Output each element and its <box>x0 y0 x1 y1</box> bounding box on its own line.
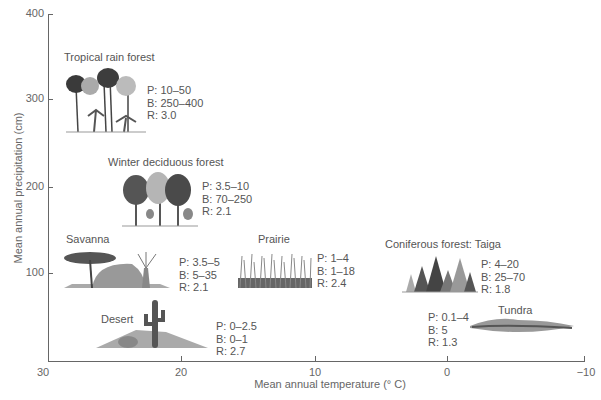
tropical-forest-illustration <box>66 66 146 134</box>
biome-stats-prairie: P: 1–4 B: 1–18 R: 2.4 <box>317 252 355 290</box>
y-axis <box>48 14 49 362</box>
y-tick-400 <box>48 14 53 15</box>
biomass-value: B: 5 <box>428 324 469 337</box>
biome-stats-tropical-rain-forest: P: 10–50 B: 250–400 R: 3.0 <box>147 84 203 122</box>
desert-cactus-illustration <box>96 300 210 350</box>
productivity-value: P: 3.5–5 <box>179 256 220 269</box>
biomass-value: B: 250–400 <box>147 97 203 110</box>
productivity-value: P: 0.1–4 <box>428 311 469 324</box>
taiga-forest-illustration <box>402 252 478 294</box>
ratio-value: R: 2.1 <box>202 205 252 218</box>
ratio-value: R: 1.3 <box>428 336 469 349</box>
biome-stats-tundra: P: 0.1–4 B: 5 R: 1.3 <box>428 311 469 349</box>
ratio-value: R: 2.7 <box>216 345 257 358</box>
ratio-value: R: 2.1 <box>179 281 220 294</box>
ratio-value: R: 2.4 <box>317 277 355 290</box>
ratio-value: R: 1.8 <box>481 283 525 296</box>
ratio-value: R: 3.0 <box>147 109 203 122</box>
x-tick-label-minus10: −10 <box>571 366 601 378</box>
x-tick-label-0: 0 <box>432 366 462 378</box>
biomass-value: B: 70–250 <box>202 193 252 206</box>
productivity-value: P: 0–2.5 <box>216 320 257 333</box>
savanna-illustration <box>62 248 172 290</box>
biome-stats-savanna: P: 3.5–5 B: 5–35 R: 2.1 <box>179 256 220 294</box>
productivity-value: P: 3.5–10 <box>202 180 252 193</box>
x-tick-0 <box>447 356 448 361</box>
biome-label-tropical-rain-forest: Tropical rain forest <box>64 51 155 63</box>
y-axis-title: Mean annual precipitation (cm) <box>12 98 24 278</box>
productivity-value: P: 4–20 <box>481 258 525 271</box>
x-tick-minus10 <box>584 356 585 361</box>
x-axis-title: Mean annual temperature (° C) <box>200 378 460 390</box>
productivity-value: P: 10–50 <box>147 84 203 97</box>
x-tick-20 <box>181 356 182 361</box>
biomass-value: B: 5–35 <box>179 269 220 282</box>
x-tick-label-20: 20 <box>166 366 196 378</box>
y-tick-300 <box>48 99 53 100</box>
biomass-value: B: 25–70 <box>481 271 525 284</box>
x-tick-label-10: 10 <box>300 366 330 378</box>
deciduous-forest-illustration <box>122 172 198 228</box>
biome-label-savanna: Savanna <box>66 233 109 245</box>
biome-label-coniferous-forest-taiga: Coniferous forest: Taiga <box>385 238 501 250</box>
biome-stats-coniferous-forest-taiga: P: 4–20 B: 25–70 R: 1.8 <box>481 258 525 296</box>
prairie-grass-illustration <box>238 252 312 288</box>
biome-stats-winter-deciduous-forest: P: 3.5–10 B: 70–250 R: 2.1 <box>202 180 252 218</box>
tundra-illustration <box>468 316 578 336</box>
y-tick-label-400: 400 <box>14 7 44 19</box>
y-tick-200 <box>48 187 53 188</box>
biome-label-winter-deciduous-forest: Winter deciduous forest <box>108 156 224 168</box>
biome-label-tundra: Tundra <box>498 304 532 316</box>
x-tick-label-30: 30 <box>28 366 58 378</box>
biomass-value: B: 1–18 <box>317 265 355 278</box>
biomass-value: B: 0–1 <box>216 333 257 346</box>
biome-stats-desert: P: 0–2.5 B: 0–1 R: 2.7 <box>216 320 257 358</box>
x-axis <box>48 361 585 362</box>
x-tick-10 <box>315 356 316 361</box>
y-tick-100 <box>48 273 53 274</box>
biome-label-prairie: Prairie <box>258 233 290 245</box>
productivity-value: P: 1–4 <box>317 252 355 265</box>
